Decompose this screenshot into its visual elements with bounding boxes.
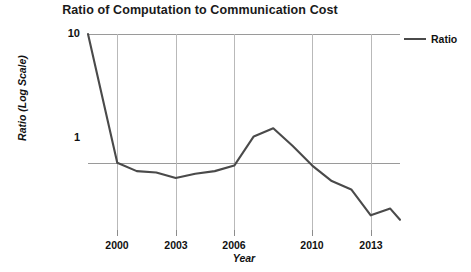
- x-axis-title: Year: [88, 252, 400, 264]
- series-layer: [88, 34, 400, 230]
- x-axis-tick-2013: [371, 230, 372, 236]
- x-axis-tick-2003: [176, 230, 177, 236]
- x-axis-tick-label-2000: 2000: [87, 239, 147, 251]
- series-line-ratio: [88, 34, 400, 220]
- x-axis-tick-2000: [117, 230, 118, 236]
- legend-label-ratio: Ratio: [431, 33, 457, 45]
- x-axis-tick-2010: [312, 230, 313, 236]
- x-axis-tick-2006: [234, 230, 235, 236]
- y-axis-tick-label-1: 1: [40, 131, 80, 143]
- legend-line-swatch: [404, 38, 426, 40]
- chart-legend: Ratio: [404, 33, 457, 45]
- x-axis-tick-label-2010: 2010: [282, 239, 342, 251]
- chart-title: Ratio of Computation to Communication Co…: [0, 3, 400, 17]
- chart-page: Ratio of Computation to Communication Co…: [0, 0, 471, 272]
- x-axis-tick-label-2006: 2006: [204, 239, 264, 251]
- plot-area: [88, 34, 400, 230]
- x-axis-tick-label-2003: 2003: [146, 239, 206, 251]
- x-axis-tick-label-2013: 2013: [341, 239, 401, 251]
- y-axis-title: Ratio (Log Scale): [16, 38, 28, 158]
- y-axis-tick-label-10: 10: [40, 27, 80, 39]
